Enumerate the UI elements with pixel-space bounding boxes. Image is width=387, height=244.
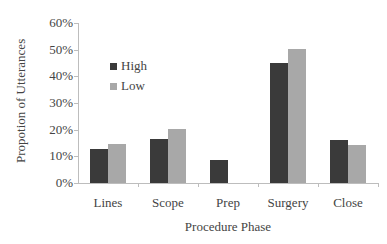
y-tick-label: 50% [33,42,73,58]
bar-high-surgery [270,63,288,183]
y-tick [74,76,78,77]
y-axis-line [78,23,79,184]
legend-swatch-low [110,83,117,90]
bar-chart: 0%10%20%30%40%50%60%LinesScopePrepSurger… [0,0,387,244]
x-tick-label: Scope [138,195,198,211]
x-tick [378,183,379,187]
x-tick-label: Surgery [258,195,318,211]
x-tick [318,183,319,187]
y-tick-label: 20% [33,122,73,138]
bar-high-prep [210,160,228,183]
y-axis-title: Propotion of Utterances [13,43,29,163]
y-tick-label: 30% [33,95,73,111]
bar-low-close [348,145,366,183]
y-tick-label: 60% [33,15,73,31]
y-tick [74,130,78,131]
y-tick-label: 40% [33,68,73,84]
y-tick [74,50,78,51]
x-tick [258,183,259,187]
y-tick [74,103,78,104]
y-tick [74,156,78,157]
x-tick-label: Close [318,195,378,211]
x-tick [198,183,199,187]
bar-high-close [330,140,348,183]
x-tick-label: Prep [198,195,258,211]
y-tick [74,183,78,184]
legend-item-high: High [110,58,147,74]
x-tick-label: Lines [78,195,138,211]
x-axis-title: Procedure Phase [78,219,378,235]
y-tick-label: 0% [33,175,73,191]
legend-label-low: Low [121,78,145,94]
legend-item-low: Low [110,78,145,94]
bar-high-lines [90,149,108,183]
legend-swatch-high [110,63,117,70]
y-tick-label: 10% [33,148,73,164]
bar-low-scope [168,129,186,183]
bar-low-surgery [288,49,306,183]
bar-low-lines [108,144,126,183]
y-tick [74,23,78,24]
x-axis-line [78,183,378,184]
legend-label-high: High [121,58,147,74]
bar-high-scope [150,139,168,183]
x-tick [138,183,139,187]
